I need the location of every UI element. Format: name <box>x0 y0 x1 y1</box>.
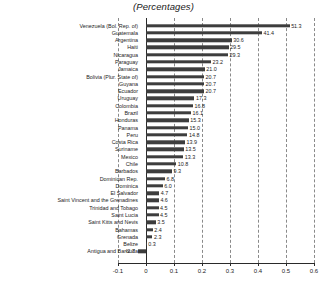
bar <box>146 75 204 78</box>
category-label: El Salvador <box>110 190 138 196</box>
bar <box>146 111 191 114</box>
bar <box>146 119 189 122</box>
bar-row: Antigua and Barbuda-2.7 <box>0 248 327 255</box>
bar-row: Saint Vincent and the Grenadines4.6 <box>0 197 327 204</box>
value-label: 16.1 <box>193 110 204 116</box>
category-label: Trinidad and Tobago <box>89 205 138 211</box>
value-label: 4.7 <box>161 190 169 196</box>
category-label: Dominican Rep. <box>100 176 138 182</box>
bar-row: Chile10.8 <box>0 160 327 167</box>
bar-row: Peru14.8 <box>0 131 327 138</box>
bar <box>146 104 193 107</box>
value-label: 20.7 <box>205 74 216 80</box>
bar-row: Venezuela (Bol. Rep. of)51.3 <box>0 22 327 29</box>
bar-row: Guatemala41.4 <box>0 29 327 36</box>
bar <box>146 199 159 202</box>
category-label: Barbados <box>115 168 138 174</box>
bar-row: Honduras15.3 <box>0 117 327 124</box>
bar <box>146 242 147 245</box>
axis-tick <box>286 263 287 266</box>
bar <box>146 170 172 173</box>
bar-row: Argentina30.6 <box>0 37 327 44</box>
bar <box>138 250 146 253</box>
axis-tick <box>118 263 119 266</box>
axis-tick-label: 0.5 <box>282 268 290 274</box>
bar-row: Ecuador20.7 <box>0 88 327 95</box>
bar <box>146 60 211 63</box>
category-label: Ecuador <box>118 88 138 94</box>
bar <box>146 133 187 136</box>
bar <box>146 206 159 209</box>
bar <box>146 191 159 194</box>
category-label: Nicaragua <box>113 52 138 58</box>
value-label: 10.8 <box>178 161 189 167</box>
value-label: 13.9 <box>186 139 197 145</box>
bar-row: Barbados9.3 <box>0 168 327 175</box>
bar <box>146 53 228 56</box>
bar <box>146 126 188 129</box>
value-label: 4.6 <box>160 197 168 203</box>
value-label: 3.5 <box>157 219 165 225</box>
bar-row: Saint Lucia4.5 <box>0 211 327 218</box>
axis-tick-label: 0.4 <box>254 268 262 274</box>
category-label: Paraguay <box>115 59 138 65</box>
category-label: Belize <box>123 241 138 247</box>
bar-row: Paraguay23.2 <box>0 58 327 65</box>
category-label: Chile <box>126 161 138 167</box>
bar <box>146 184 163 187</box>
category-label: Saint Vincent and the Grenadines <box>57 197 138 203</box>
value-label: 2.3 <box>154 234 162 240</box>
value-label: 15.0 <box>190 125 201 131</box>
category-label: Costa Rica <box>112 139 138 145</box>
bar-row: Costa Rica13.9 <box>0 139 327 146</box>
x-axis-line <box>118 263 314 264</box>
value-label: 29.5 <box>230 44 241 50</box>
value-label: 16.8 <box>195 103 206 109</box>
bar <box>146 39 232 42</box>
axis-tick <box>314 263 315 266</box>
axis-tick <box>174 263 175 266</box>
category-label: Saint Lucia <box>111 212 138 218</box>
bar-row: Dominica6.0 <box>0 182 327 189</box>
category-label: Bolivia (Plur. State of) <box>86 74 138 80</box>
category-label: Uruguay <box>118 95 138 101</box>
value-label: 4.5 <box>160 212 168 218</box>
axis-tick-label: 0.6 <box>310 268 318 274</box>
bar-row: Saint Kitts and Nevis3.5 <box>0 219 327 226</box>
axis-tick <box>258 263 259 266</box>
bar-row: Nicaragua29.3 <box>0 51 327 58</box>
bar-chart: (Percentages) Venezuela (Bol. Rep. of)51… <box>0 0 327 285</box>
axis-tick <box>230 263 231 266</box>
bar-row: Brazil16.1 <box>0 109 327 116</box>
axis-tick <box>146 263 147 266</box>
bar <box>146 31 262 34</box>
axis-tick-label: 0.1 <box>170 268 178 274</box>
category-label: Bahamas <box>115 227 138 233</box>
axis-tick-label: 0 <box>144 268 147 274</box>
value-label: 23.2 <box>212 59 223 65</box>
bar <box>146 235 152 238</box>
bar-row: Grenada2.3 <box>0 233 327 240</box>
category-label: Haiti <box>127 44 138 50</box>
bar <box>146 140 185 143</box>
bar <box>146 82 204 85</box>
category-label: Peru <box>127 132 138 138</box>
bar-row: Mexico13.3 <box>0 153 327 160</box>
category-label: Colombia <box>115 103 138 109</box>
bar <box>146 213 159 216</box>
bar-row: Trinidad and Tobago4.5 <box>0 204 327 211</box>
value-label: -2.7 <box>125 248 134 254</box>
category-label: Jamaica <box>118 66 138 72</box>
plot-area: Venezuela (Bol. Rep. of)51.3Guatemala41.… <box>0 18 327 263</box>
category-label: Venezuela (Bol. Rep. of) <box>80 23 138 29</box>
bar-row: Bolivia (Plur. State of)20.7 <box>0 73 327 80</box>
category-label: Saint Kitts and Nevis <box>88 219 138 225</box>
axis-tick <box>202 263 203 266</box>
value-label: 0.3 <box>148 241 156 247</box>
bar <box>146 162 176 165</box>
value-label: 6.8 <box>167 176 175 182</box>
axis-tick-label: 0.2 <box>198 268 206 274</box>
category-label: Guyana <box>119 81 138 87</box>
value-label: 6.0 <box>164 183 172 189</box>
category-label: Grenada <box>117 234 138 240</box>
